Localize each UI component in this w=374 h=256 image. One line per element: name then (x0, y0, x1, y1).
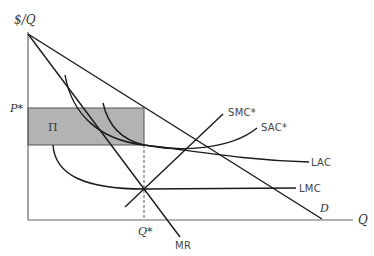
x-axis-label: Q (358, 213, 368, 227)
mr-label: MR (175, 240, 191, 251)
profit-label: Π (48, 121, 58, 134)
y-axis-label: $/Q (14, 13, 36, 27)
lmc-curve (53, 145, 296, 189)
sac-star-label: SAC* (261, 122, 287, 133)
monopoly-diagram: $/Q Q P* Q* Π D MR SMC* SAC* LAC LMC (0, 0, 374, 256)
profit-area (28, 108, 144, 145)
smc-star-label: SMC* (228, 107, 256, 118)
lmc-label: LMC (299, 183, 321, 194)
quantity-label: Q* (138, 225, 153, 238)
price-label: P* (9, 102, 23, 115)
demand-label: D (319, 202, 329, 215)
lac-label: LAC (311, 157, 331, 168)
